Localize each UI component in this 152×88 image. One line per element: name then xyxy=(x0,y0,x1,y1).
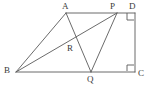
right-angle-marker-C xyxy=(127,65,134,71)
vertex-label-R: R xyxy=(67,44,73,53)
right-angle-marker-D xyxy=(127,13,134,20)
vertex-label-C: C xyxy=(138,69,144,78)
figure-canvas xyxy=(0,0,152,88)
vertex-label-P: P xyxy=(110,2,115,11)
geometry-figure: A P D C Q B R xyxy=(0,0,152,88)
vertex-label-Q: Q xyxy=(87,75,94,84)
vertex-label-D: D xyxy=(129,2,136,11)
vertex-label-A: A xyxy=(62,2,69,11)
segment-PQ xyxy=(91,13,117,72)
vertex-label-B: B xyxy=(4,66,10,75)
segment-BA xyxy=(16,13,66,72)
